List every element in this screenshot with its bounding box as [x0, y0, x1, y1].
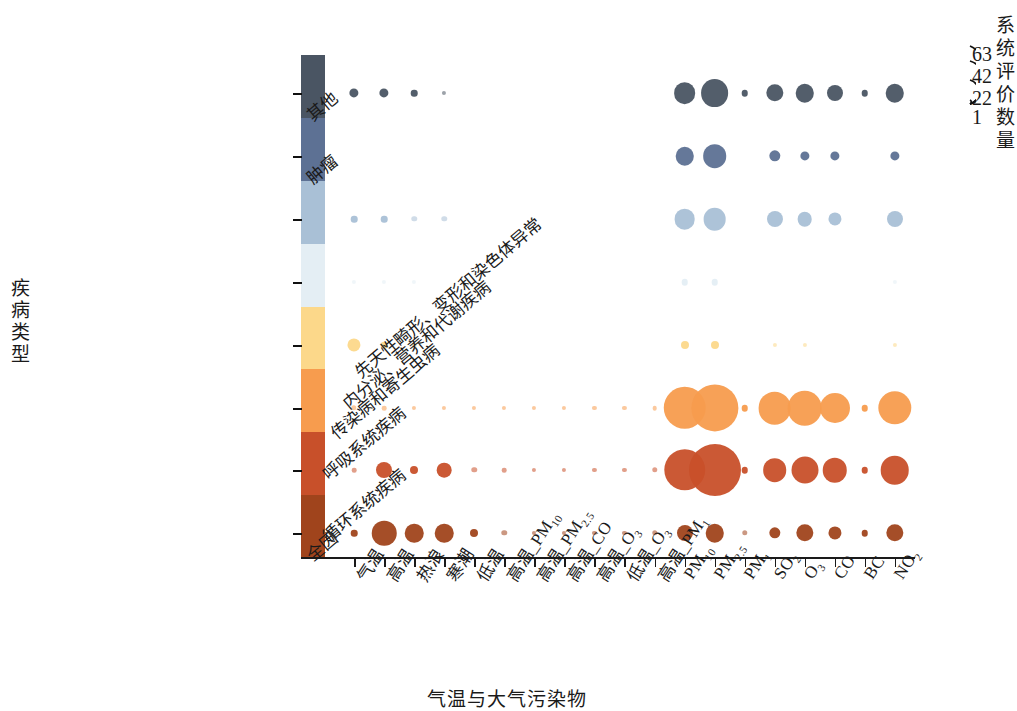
bubble: [592, 468, 596, 472]
bubble: [791, 457, 818, 484]
bubble: [827, 85, 843, 101]
legend: 63 42 22 1 系统评价数量: [920, 8, 1013, 208]
bubble: [893, 280, 897, 284]
bubble: [800, 151, 809, 160]
row-tick-4: [293, 345, 302, 347]
bubble: [442, 91, 446, 95]
bubble: [758, 392, 791, 425]
y-axis-title-glyph: 型: [8, 344, 34, 366]
row-color-band-2: [301, 181, 325, 244]
bubble: [878, 391, 911, 424]
bubble: [437, 463, 452, 478]
bubble: [412, 406, 416, 410]
bubble: [787, 391, 822, 426]
legend-title: 系统评价数量: [995, 14, 1017, 152]
bubble: [681, 341, 689, 349]
bubble: [502, 468, 507, 473]
y-axis-title-glyph: 病: [8, 300, 34, 322]
bubble: [502, 406, 506, 410]
bubble: [711, 341, 719, 349]
bubble: [562, 468, 566, 472]
row-color-band-3: [301, 244, 325, 307]
row-tick-6: [293, 470, 302, 472]
legend-title-glyph: 统: [995, 37, 1017, 60]
bubble: [352, 468, 357, 473]
bubble: [347, 338, 360, 351]
bubble: [711, 279, 718, 286]
bubble: [471, 467, 476, 472]
bubble: [532, 468, 536, 472]
bubble: [886, 84, 905, 103]
legend-title-glyph: 系: [995, 14, 1017, 37]
bubble: [763, 458, 787, 482]
bubble: [351, 530, 358, 537]
bubble: [652, 467, 657, 472]
bubble: [881, 456, 910, 485]
bubble: [349, 88, 358, 97]
bubble: [592, 406, 596, 410]
bubble: [372, 521, 397, 546]
bubble: [862, 530, 869, 537]
bubble: [412, 280, 416, 284]
bubble: [352, 280, 356, 284]
bubble: [766, 84, 783, 101]
row-tick-0: [293, 93, 302, 95]
legend-value-42: 42: [972, 66, 992, 86]
bubble: [652, 406, 657, 411]
bubble: [442, 406, 446, 410]
row-color-band-5: [301, 369, 325, 432]
bubble: [622, 406, 626, 410]
row-color-strip: [301, 55, 325, 558]
bubble: [886, 524, 903, 541]
row-tick-2: [293, 219, 302, 221]
legend-title-glyph: 数: [995, 106, 1017, 129]
bubble: [893, 343, 897, 347]
bubble: [410, 466, 418, 474]
bubble: [562, 406, 566, 410]
bubble: [675, 147, 694, 166]
bubble: [405, 524, 424, 543]
bubble: [382, 280, 386, 284]
bubble: [773, 343, 777, 347]
row-tick-marks: [293, 55, 302, 558]
bubble: [689, 444, 741, 496]
bubble: [674, 82, 696, 104]
bubble: [622, 468, 626, 472]
bubble: [674, 209, 695, 230]
bubble: [681, 279, 688, 286]
bubble: [472, 406, 476, 410]
bubble: [379, 88, 388, 97]
bubble: [502, 530, 507, 535]
legend-nested-circle-arcs: [920, 38, 976, 116]
bubble: [769, 527, 780, 538]
y-axis-title-glyph: 疾: [8, 278, 34, 300]
legend-title-glyph: 价: [995, 83, 1017, 106]
legend-value-22: 22: [972, 88, 992, 108]
bubble: [769, 150, 780, 161]
row-tick-7: [293, 533, 302, 535]
bubble: [435, 524, 454, 543]
bubble: [797, 212, 812, 227]
bubble: [381, 216, 388, 223]
bubble: [887, 211, 903, 227]
x-axis-title: 气温与大气污染物: [0, 684, 1013, 711]
bubble: [741, 405, 748, 412]
bubble: [532, 406, 536, 410]
bubble: [701, 79, 729, 107]
bubble: [351, 216, 358, 223]
row-tick-1: [293, 156, 302, 158]
bubble: [823, 458, 848, 483]
legend-value-1: 1: [972, 107, 982, 127]
bubble: [441, 216, 446, 221]
bubble: [828, 526, 841, 539]
bubble: [767, 211, 783, 227]
bubble: [820, 393, 850, 423]
bubble: [741, 467, 748, 474]
bubble: [470, 529, 478, 537]
bubble: [691, 384, 738, 431]
bubble: [741, 90, 748, 97]
y-axis-title-glyph: 类: [8, 322, 34, 344]
bubble: [703, 208, 726, 231]
bubble: [803, 343, 807, 347]
